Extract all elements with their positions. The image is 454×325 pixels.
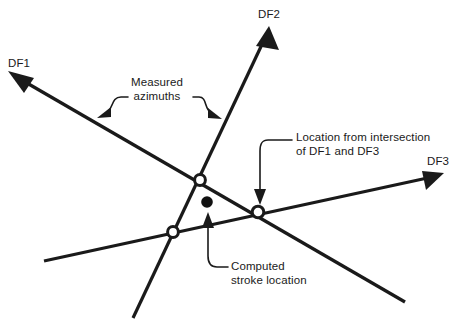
label-df2: DF2 — [258, 8, 280, 21]
node-df1-df3-intersection — [252, 206, 264, 218]
leader-computed-arrowhead-icon — [202, 212, 214, 228]
df3-line-group — [44, 171, 444, 261]
leader-measured-azimuths-right-arrowhead-icon — [208, 108, 222, 119]
label-measured-azimuths: Measured azimuths — [131, 76, 183, 103]
figure-canvas: DF1 DF2 DF3 Measured azimuths Location f… — [0, 0, 454, 325]
label-computed-stroke-location: Computed stroke location — [231, 260, 307, 287]
leader-computed-stroke-location — [202, 212, 228, 267]
node-computed-stroke-location — [201, 196, 213, 208]
label-df3: DF3 — [427, 155, 449, 168]
leader-computed-stroke-location-path — [208, 224, 228, 267]
df3-arrowhead-icon — [422, 171, 444, 190]
df2-arrowhead-icon — [256, 26, 279, 50]
leader-measured-azimuths-left-arrowhead-icon — [97, 107, 111, 118]
df1-arrowhead-icon — [8, 71, 34, 93]
diagram-svg — [0, 0, 454, 325]
leader-measured-azimuths-left — [97, 97, 128, 118]
df3-line — [44, 177, 432, 261]
label-df1: DF1 — [8, 57, 30, 70]
node-df2-df3-intersection — [168, 227, 179, 238]
leader-measured-azimuths-right — [193, 97, 222, 119]
leader-location-arrowhead-icon — [254, 189, 266, 205]
leader-location-from-intersection — [254, 140, 292, 205]
label-location-from-intersection: Location from intersection of DF1 and DF… — [296, 131, 430, 158]
leader-location-from-intersection-path — [260, 140, 292, 193]
node-df1-df2-intersection — [195, 175, 206, 186]
